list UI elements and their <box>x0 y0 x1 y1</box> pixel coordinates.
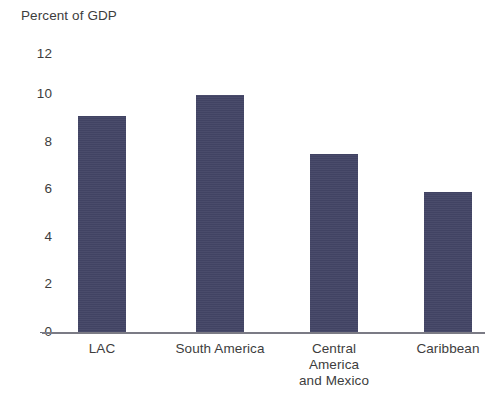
x-axis-label-line: America <box>271 357 397 373</box>
x-axis-label-central-america-and-mexico: Central America and Mexico <box>271 341 397 389</box>
bar-texture <box>310 154 358 332</box>
bar-south-america <box>196 95 244 333</box>
bar-chart: Percent of GDP 12 10 8 6 4 2 0 <box>0 0 492 404</box>
bar-central-america-and-mexico <box>310 154 358 332</box>
bar-texture <box>196 95 244 333</box>
x-axis-label-line: and Mexico <box>271 373 397 389</box>
bar-caribbean <box>424 192 472 332</box>
bar-texture <box>424 192 472 332</box>
x-axis-label-caribbean: Caribbean <box>385 341 492 357</box>
x-axis-label-line: LAC <box>39 341 165 357</box>
x-axis-label-line: Central <box>271 341 397 357</box>
plot-area: 12 10 8 6 4 2 0 <box>0 0 492 404</box>
bar-texture <box>78 116 126 332</box>
x-axis-label-south-america: South America <box>157 341 283 357</box>
x-axis-label-lac: LAC <box>39 341 165 357</box>
x-axis-label-line: South America <box>157 341 283 357</box>
bar-lac <box>78 116 126 332</box>
x-axis-label-line: Caribbean <box>385 341 492 357</box>
